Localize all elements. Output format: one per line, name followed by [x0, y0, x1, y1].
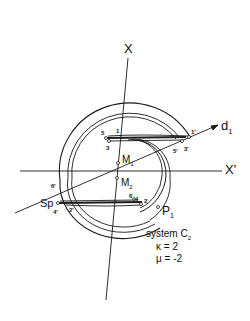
m1-label: M1: [122, 155, 134, 167]
d1-label: d1: [221, 119, 233, 135]
x-axis-label: X: [124, 42, 133, 55]
x-prime-axis-label: X': [225, 163, 236, 176]
d1-arrow-icon: [211, 125, 218, 130]
point-2-marker: [140, 203, 143, 206]
kappa-value: κ = 2: [156, 242, 178, 252]
point-4prime-label: 4': [53, 209, 58, 215]
sp-label: Sp: [40, 198, 53, 209]
lower-band-upper: [60, 200, 138, 201]
point-1prime-label: 1': [191, 129, 196, 135]
point-2-label: 2: [144, 198, 147, 204]
point-1-label: 1: [116, 128, 119, 134]
d1-label-sub: 1: [228, 127, 232, 136]
p1-label-text: P: [162, 204, 170, 218]
p1-marker: [157, 206, 160, 209]
system-label-text: system C: [146, 228, 188, 239]
upper-band-lower: [108, 140, 183, 141]
upper-band-upper: [108, 135, 188, 136]
point-3prime-label: 3': [184, 146, 189, 152]
m1-marker: [117, 162, 120, 165]
system-label: system C2: [146, 229, 191, 241]
point-3-marker: [108, 140, 111, 143]
spiral-diagram: X X' d1 M1 M2 P1 Sp 5 1 3 1' 5' 3' 6 4 2…: [0, 0, 250, 321]
point-6-label: 6: [129, 193, 132, 199]
point-5prime-label: 5': [173, 148, 178, 154]
point-5-marker: [105, 137, 108, 140]
point-3-label: 3: [106, 145, 109, 151]
point-6prime-label: 6': [51, 183, 56, 189]
m2-label: M2: [121, 178, 133, 190]
system-label-sub: 2: [188, 235, 191, 241]
lower-band-lower: [66, 205, 140, 206]
point-2prime-label: 2': [69, 207, 74, 213]
mu-value: μ = -2: [156, 254, 182, 264]
p1-label-sub: 1: [170, 211, 174, 220]
p1-label: P1: [162, 205, 174, 220]
point-1prime-marker: [188, 136, 191, 139]
sp-marker: [57, 202, 60, 205]
m2-label-sub: 2: [129, 184, 132, 190]
point-3prime-marker: [181, 140, 184, 143]
point-4-label: 4: [135, 196, 138, 202]
upper-band: [106, 137, 186, 138]
point-5-label: 5: [101, 130, 104, 136]
lower-band: [58, 202, 142, 203]
m1-label-sub: 1: [130, 161, 133, 167]
m2-marker: [116, 177, 119, 180]
